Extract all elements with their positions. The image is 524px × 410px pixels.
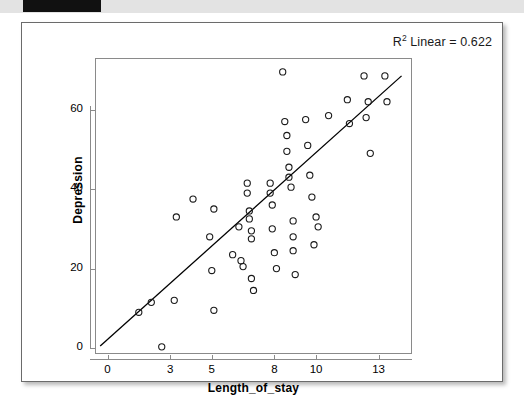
x-axis-line bbox=[90, 359, 412, 360]
scatter-point bbox=[230, 252, 236, 258]
y-tick-label: 0 bbox=[43, 340, 83, 352]
x-tick-label: 3 bbox=[155, 363, 185, 375]
r-squared-prefix: R bbox=[393, 35, 402, 49]
scatter-point bbox=[248, 228, 254, 234]
y-tick-mark bbox=[90, 348, 95, 349]
scatter-point bbox=[313, 214, 319, 220]
x-tick-label: 8 bbox=[259, 363, 289, 375]
scatter-point bbox=[173, 214, 179, 220]
scatter-point bbox=[248, 236, 254, 242]
y-axis-line bbox=[90, 106, 91, 348]
scan-header-black-block bbox=[23, 0, 101, 12]
scatter-point bbox=[240, 263, 246, 269]
scatter-point bbox=[273, 265, 279, 271]
scatter-point bbox=[305, 142, 311, 148]
scatter-point bbox=[346, 120, 352, 126]
scatter-point bbox=[246, 216, 252, 222]
x-tick-label: 0 bbox=[93, 363, 123, 375]
scatter-point bbox=[159, 344, 165, 350]
scatter-point bbox=[315, 224, 321, 230]
scatter-point bbox=[284, 148, 290, 154]
scatter-point bbox=[363, 115, 369, 121]
scatter-point bbox=[207, 234, 213, 240]
scatter-point bbox=[250, 287, 256, 293]
linear-fit-line bbox=[100, 76, 401, 346]
scatter-point bbox=[269, 202, 275, 208]
scatter-point bbox=[284, 132, 290, 138]
y-tick-label: 60 bbox=[43, 102, 83, 114]
scatter-point bbox=[325, 113, 331, 119]
x-tick-label: 5 bbox=[197, 363, 227, 375]
data-points-group bbox=[136, 69, 390, 350]
scatter-point bbox=[303, 116, 309, 122]
scatter-point bbox=[244, 180, 250, 186]
scatter-point bbox=[267, 180, 273, 186]
x-tick-label: 10 bbox=[301, 363, 331, 375]
scatter-plot-canvas bbox=[95, 58, 412, 354]
scatter-point bbox=[248, 275, 254, 281]
fit-line-group bbox=[100, 76, 401, 346]
scatter-point bbox=[211, 206, 217, 212]
scatter-point bbox=[244, 190, 250, 196]
scatter-point bbox=[365, 99, 371, 105]
scatter-point bbox=[309, 194, 315, 200]
x-tick-label: 13 bbox=[364, 363, 394, 375]
scatter-point bbox=[286, 164, 292, 170]
figure-card: R2 Linear = 0.622 Depression Length_of_s… bbox=[21, 22, 503, 382]
scatter-point bbox=[311, 242, 317, 248]
scatter-point bbox=[280, 69, 286, 75]
scatter-point bbox=[209, 267, 215, 273]
y-tick-label: 20 bbox=[43, 261, 83, 273]
scatter-point bbox=[307, 172, 313, 178]
scatter-point bbox=[236, 224, 242, 230]
r-squared-value-text: Linear = 0.622 bbox=[407, 35, 492, 49]
scatter-point bbox=[367, 150, 373, 156]
y-tick-label: 40 bbox=[43, 181, 83, 193]
scatter-point bbox=[344, 97, 350, 103]
scan-header-strip bbox=[0, 0, 524, 13]
scatter-point bbox=[269, 226, 275, 232]
scatter-point bbox=[288, 184, 294, 190]
scatter-point bbox=[290, 248, 296, 254]
scatter-point bbox=[271, 250, 277, 256]
scatter-point bbox=[292, 271, 298, 277]
scatter-point bbox=[382, 73, 388, 79]
scatter-point bbox=[190, 196, 196, 202]
r-squared-annotation: R2 Linear = 0.622 bbox=[393, 33, 492, 49]
scatter-point bbox=[290, 218, 296, 224]
scatter-point bbox=[171, 297, 177, 303]
scatter-point bbox=[238, 258, 244, 264]
scatter-point bbox=[384, 99, 390, 105]
scatter-point bbox=[361, 73, 367, 79]
x-axis-title: Length_of_stay bbox=[95, 381, 412, 395]
scatter-point bbox=[282, 118, 288, 124]
scatter-point bbox=[290, 234, 296, 240]
scatter-point bbox=[211, 307, 217, 313]
